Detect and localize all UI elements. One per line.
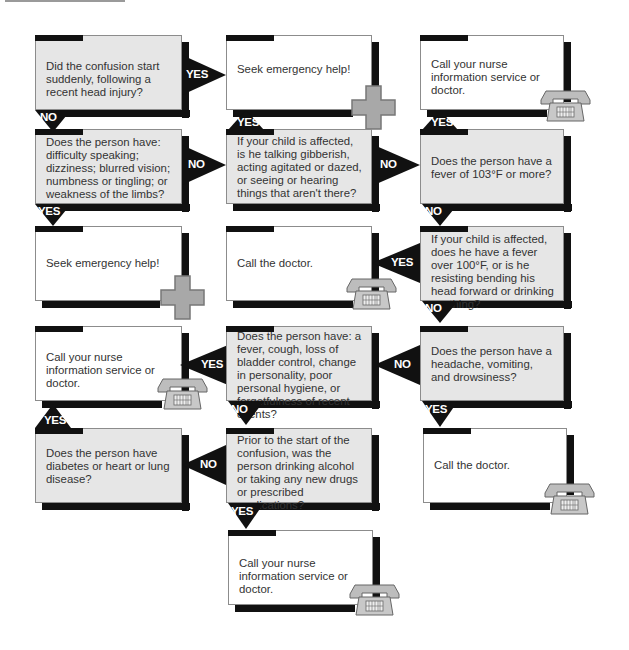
telephone-icon: [347, 584, 402, 616]
arrow-yes-up: YES: [35, 404, 71, 428]
arrow-no-down: NO: [422, 204, 458, 226]
arrow-yes-down: YES: [35, 204, 71, 226]
question-diabetes-heart-lung: Does the person have diabetes or heart o…: [35, 428, 182, 503]
arrow-no-left: NO: [374, 345, 420, 385]
node-text: Call your nurse information service or d…: [46, 351, 173, 390]
node-text: Seek emergency help!: [46, 257, 173, 270]
question-head-injury: Did the confusion start suddenly, follow…: [35, 35, 182, 110]
node-text: Call the doctor.: [434, 459, 558, 472]
arrow-yes-down: YES: [228, 503, 264, 529]
top-rule: [5, 0, 125, 2]
telephone-icon: [538, 90, 593, 122]
node-text: Prior to the start of the confusion, was…: [237, 434, 363, 512]
arrow-no-left: NO: [182, 445, 226, 485]
node-text: Seek emergency help!: [237, 63, 363, 76]
arrow-yes-up: YES: [422, 110, 458, 130]
node-text: If your child is affected, is he talking…: [237, 135, 363, 200]
node-text: Does the person have: difficulty speakin…: [46, 136, 173, 201]
node-text: Does the person have diabetes or heart o…: [46, 447, 173, 486]
question-speaking-dizziness: Does the person have: difficulty speakin…: [35, 129, 182, 204]
question-fever-103: Does the person have a fever of 103°F or…: [420, 129, 564, 204]
arrow-no-right: NO: [182, 145, 226, 185]
arrow-no-down: NO: [422, 301, 458, 323]
question-child-fever-100: If your child is affected, does he have …: [420, 226, 564, 301]
medical-cross-icon: [351, 85, 396, 130]
question-alcohol-drugs: Prior to the start of the confusion, was…: [226, 428, 372, 503]
arrow-no-down: NO: [228, 401, 264, 425]
question-headache-vomiting: Does the person have a headache, vomitin…: [420, 326, 564, 401]
node-text: Call your nurse information service or d…: [239, 557, 364, 596]
node-text: Call your nurse information service or d…: [431, 58, 555, 97]
node-text: Does the person have a fever of 103°F or…: [431, 155, 555, 181]
arrow-yes-down: YES: [422, 401, 458, 427]
medical-cross-icon: [160, 275, 205, 320]
telephone-icon: [542, 483, 597, 515]
arrow-yes-left: YES: [180, 345, 228, 385]
question-child-gibberish: If your child is affected, is he talking…: [226, 129, 372, 204]
arrow-yes-right: YES: [182, 55, 226, 95]
arrow-yes-left: YES: [372, 243, 420, 283]
node-text: Did the confusion start suddenly, follow…: [46, 60, 173, 99]
node-text: If your child is affected, does he have …: [431, 233, 555, 311]
node-text: Does the person have a headache, vomitin…: [431, 345, 555, 384]
arrow-yes-up: YES: [228, 110, 264, 130]
node-text: Call the doctor.: [237, 257, 363, 270]
arrow-no-right: NO: [374, 145, 420, 185]
question-fever-cough-personality: Does the person have: a fever, cough, lo…: [226, 326, 372, 401]
